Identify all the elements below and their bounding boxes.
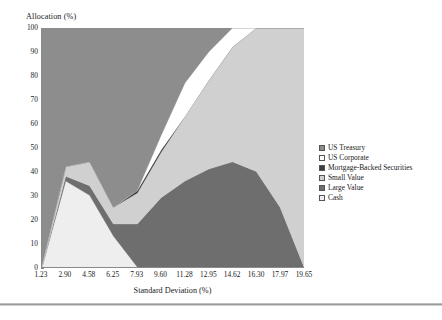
legend-swatch-icon xyxy=(319,145,325,151)
legend-item-label: Small Value xyxy=(328,174,364,182)
y-axis-title: Allocation (%) xyxy=(26,12,76,21)
x-axis-tick-labels: 1.232.904.586.257.939.6011.2812.9514.621… xyxy=(41,271,304,285)
legend-item-label: Large Value xyxy=(328,184,364,192)
y-tick-mark xyxy=(41,268,44,269)
y-tick-mark xyxy=(41,220,44,221)
y-tick-label: 10 xyxy=(18,240,38,247)
legend-item-label: US Corporate xyxy=(328,154,369,162)
stacked-area-svg xyxy=(42,28,304,267)
legend-swatch-icon xyxy=(319,165,325,171)
y-tick-mark xyxy=(41,196,44,197)
y-tick-label: 70 xyxy=(18,96,38,103)
legend-swatch-icon xyxy=(319,185,325,191)
y-tick-mark xyxy=(41,100,44,101)
y-tick-mark xyxy=(41,172,44,173)
y-tick-mark xyxy=(41,124,44,125)
y-tick-label: 40 xyxy=(18,168,38,175)
legend-item[interactable]: US Corporate xyxy=(319,153,439,163)
y-tick-label: 30 xyxy=(18,192,38,199)
y-tick-label: 90 xyxy=(18,48,38,55)
legend-item[interactable]: Cash xyxy=(319,193,439,203)
legend-item-label: US Treasury xyxy=(328,144,365,152)
chart-legend: US TreasuryUS CorporateMortgage-Backed S… xyxy=(319,143,439,203)
x-tick-label: 19.65 xyxy=(287,271,321,279)
y-tick-label: 50 xyxy=(18,144,38,151)
legend-swatch-icon xyxy=(319,195,325,201)
y-tick-mark xyxy=(41,76,44,77)
legend-item[interactable]: Mortgage-Backed Securities xyxy=(319,163,439,173)
y-tick-mark xyxy=(41,244,44,245)
y-tick-label: 100 xyxy=(18,24,38,31)
y-tick-mark xyxy=(41,148,44,149)
legend-item[interactable]: Large Value xyxy=(319,183,439,193)
y-tick-label: 80 xyxy=(18,72,38,79)
legend-item-label: Cash xyxy=(328,194,343,202)
y-tick-label: 60 xyxy=(18,120,38,127)
legend-swatch-icon xyxy=(319,155,325,161)
plot-area xyxy=(41,28,304,268)
y-tick-label: 20 xyxy=(18,216,38,223)
legend-swatch-icon xyxy=(319,175,325,181)
y-axis-tick-labels: 1009080706050403020100 xyxy=(14,28,38,268)
y-tick-mark xyxy=(41,52,44,53)
x-axis-title: Standard Deviation (%) xyxy=(41,286,304,295)
footer-divider xyxy=(0,303,442,306)
legend-item[interactable]: Small Value xyxy=(319,173,439,183)
legend-item-label: Mortgage-Backed Securities xyxy=(328,164,412,172)
y-tick-mark xyxy=(41,28,44,29)
legend-item[interactable]: US Treasury xyxy=(319,143,439,153)
efficient-frontier-allocation-chart: Allocation (%) 1009080706050403020100 1.… xyxy=(0,0,442,320)
